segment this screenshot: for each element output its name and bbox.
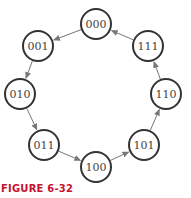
state-label: 011 bbox=[34, 139, 55, 152]
state-000: 000 bbox=[81, 9, 111, 39]
state-label: 101 bbox=[134, 139, 155, 152]
state-011: 011 bbox=[29, 130, 59, 160]
state-001: 001 bbox=[23, 31, 53, 61]
transition-arrow-111-to-000 bbox=[112, 31, 134, 40]
state-100: 100 bbox=[81, 152, 111, 182]
state-label: 010 bbox=[10, 88, 31, 101]
figure-caption: FIGURE 6-32 bbox=[1, 183, 73, 194]
transition-arrow-000-to-001 bbox=[54, 30, 81, 40]
state-diagram: 000001010011100101110111 bbox=[0, 0, 191, 198]
state-label: 000 bbox=[86, 18, 107, 31]
transition-arrow-110-to-111 bbox=[154, 62, 160, 79]
state-label: 110 bbox=[156, 88, 177, 101]
state-010: 010 bbox=[5, 79, 35, 109]
transition-arrow-100-to-101 bbox=[111, 152, 129, 160]
transition-arrow-001-to-010 bbox=[26, 61, 32, 78]
states: 000001010011100101110111 bbox=[5, 9, 181, 182]
state-label: 111 bbox=[138, 40, 159, 53]
transition-arrow-010-to-011 bbox=[27, 108, 37, 129]
state-111: 111 bbox=[133, 31, 163, 61]
state-label: 001 bbox=[28, 40, 49, 53]
state-label: 100 bbox=[86, 161, 107, 174]
state-101: 101 bbox=[129, 130, 159, 160]
transition-arrow-101-to-110 bbox=[150, 110, 159, 131]
state-110: 110 bbox=[151, 79, 181, 109]
transition-arrow-011-to-100 bbox=[59, 151, 81, 160]
